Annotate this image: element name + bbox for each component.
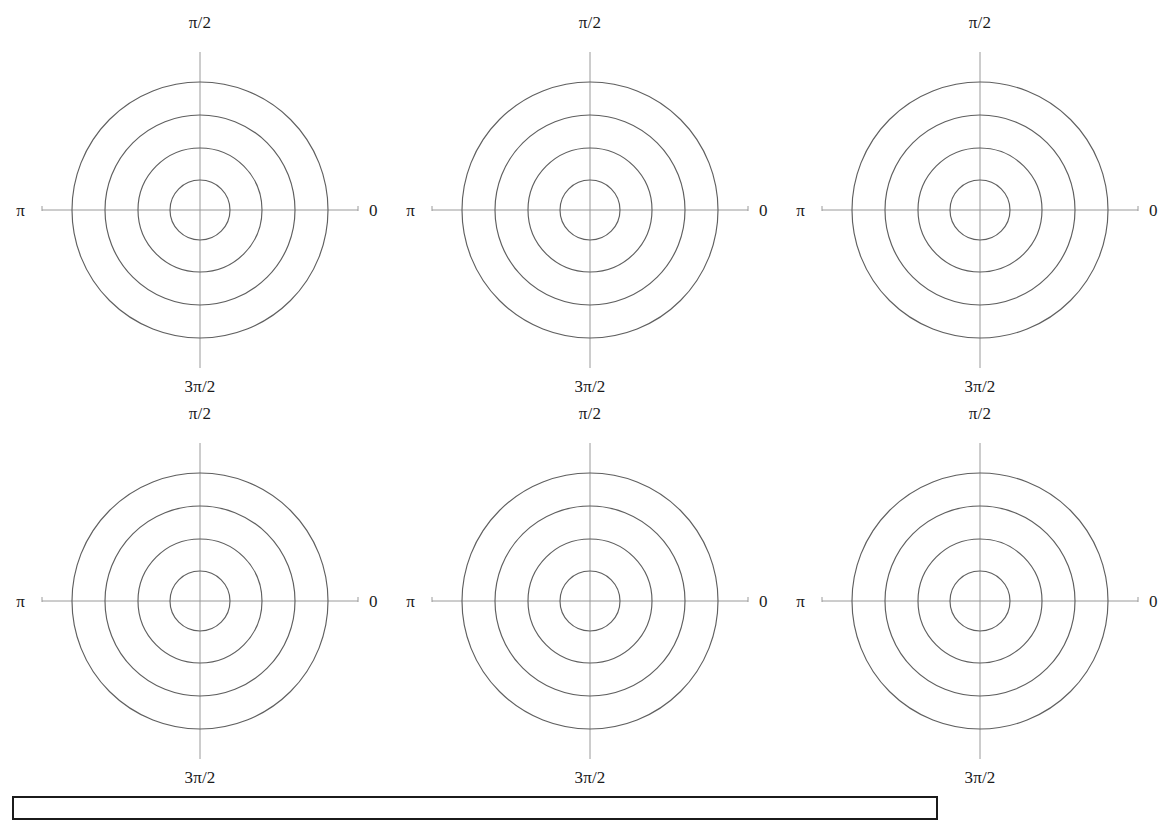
angle-label-pi-panel-r1c3: π: [796, 202, 805, 219]
angle-label-pi-panel-r2c1: π: [16, 593, 25, 610]
angle-label-pi-over-2-panel-r1c1: π/2: [189, 14, 211, 31]
panel-r2c3: π/23π/2π0: [780, 391, 1170, 791]
polar-grid-panel-r1c1: [0, 0, 390, 400]
polar-grid-panel-r2c3: [780, 391, 1170, 791]
angle-label-pi-over-2-panel-r2c1: π/2: [189, 405, 211, 422]
polar-grid-panel-r1c3: [780, 0, 1170, 400]
angle-label-zero-panel-r2c1: 0: [369, 593, 378, 610]
angle-label-3pi-over-2-panel-r2c3: 3π/2: [964, 769, 995, 786]
angle-label-pi-over-2-panel-r1c3: π/2: [969, 14, 991, 31]
panel-r1c1: π/23π/2π0: [0, 0, 390, 400]
angle-label-zero-panel-r2c2: 0: [759, 593, 768, 610]
angle-label-3pi-over-2-panel-r2c1: 3π/2: [184, 769, 215, 786]
panel-r1c3: π/23π/2π0: [780, 0, 1170, 400]
angle-label-pi-panel-r2c2: π: [406, 593, 415, 610]
polar-grid-panel-r2c2: [390, 391, 780, 791]
caption-box: [12, 796, 938, 820]
panel-r2c1: π/23π/2π0: [0, 391, 390, 791]
polar-grid-panel-r2c1: [0, 391, 390, 791]
angle-label-pi-over-2-panel-r2c3: π/2: [969, 405, 991, 422]
angle-label-3pi-over-2-panel-r2c2: 3π/2: [574, 769, 605, 786]
angle-label-pi-over-2-panel-r1c2: π/2: [579, 14, 601, 31]
panel-r1c2: π/23π/2π0: [390, 0, 780, 400]
angle-label-pi-panel-r2c3: π: [796, 593, 805, 610]
angle-label-pi-over-2-panel-r2c2: π/2: [579, 405, 601, 422]
angle-label-pi-panel-r1c1: π: [16, 202, 25, 219]
angle-label-pi-panel-r1c2: π: [406, 202, 415, 219]
angle-label-zero-panel-r1c1: 0: [369, 202, 378, 219]
angle-label-zero-panel-r1c2: 0: [759, 202, 768, 219]
panel-r2c2: π/23π/2π0: [390, 391, 780, 791]
angle-label-zero-panel-r1c3: 0: [1149, 202, 1158, 219]
polar-grid-panel-r1c2: [390, 0, 780, 400]
angle-label-zero-panel-r2c3: 0: [1149, 593, 1158, 610]
figure-canvas: π/23π/2π0π/23π/2π0π/23π/2π0π/23π/2π0π/23…: [0, 0, 1170, 820]
